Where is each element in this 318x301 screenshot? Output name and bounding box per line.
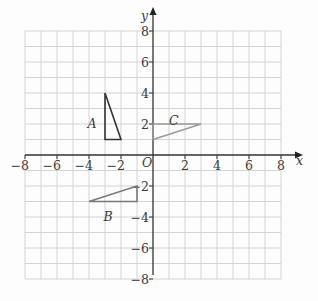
y-tick-label: 4 bbox=[141, 86, 149, 101]
shape-label-c: C bbox=[169, 113, 179, 128]
y-tick-label: −6 bbox=[131, 241, 149, 256]
axes bbox=[25, 7, 303, 275]
x-tick-label: 8 bbox=[277, 158, 285, 173]
y-tick-label: −2 bbox=[131, 179, 149, 194]
y-tick-label: −8 bbox=[131, 272, 149, 287]
x-tick-label: 6 bbox=[245, 158, 253, 173]
y-axis-arrow-icon bbox=[150, 7, 157, 15]
x-tick-label: −2 bbox=[107, 158, 125, 173]
y-tick-label: 8 bbox=[141, 24, 149, 39]
triangle-b bbox=[89, 186, 137, 202]
x-tick-label: −6 bbox=[43, 158, 61, 173]
coordinate-grid-diagram: −8−6−4−224688642−2−4−6−8 x y O ABC bbox=[0, 0, 318, 301]
triangle-a bbox=[105, 93, 121, 140]
y-tick-label: −4 bbox=[131, 210, 149, 225]
shape-label-b: B bbox=[102, 209, 112, 224]
shape-label-a: A bbox=[86, 116, 96, 131]
x-tick-label: −8 bbox=[11, 158, 29, 173]
x-tick-label: −4 bbox=[75, 158, 93, 173]
x-axis-label: x bbox=[296, 153, 303, 168]
y-tick-label: 2 bbox=[141, 117, 149, 132]
x-tick-label: 4 bbox=[213, 158, 221, 173]
y-tick-label: 6 bbox=[141, 55, 149, 70]
x-tick-label: 2 bbox=[181, 158, 189, 173]
origin-label: O bbox=[142, 155, 152, 170]
y-axis-label: y bbox=[140, 8, 149, 23]
